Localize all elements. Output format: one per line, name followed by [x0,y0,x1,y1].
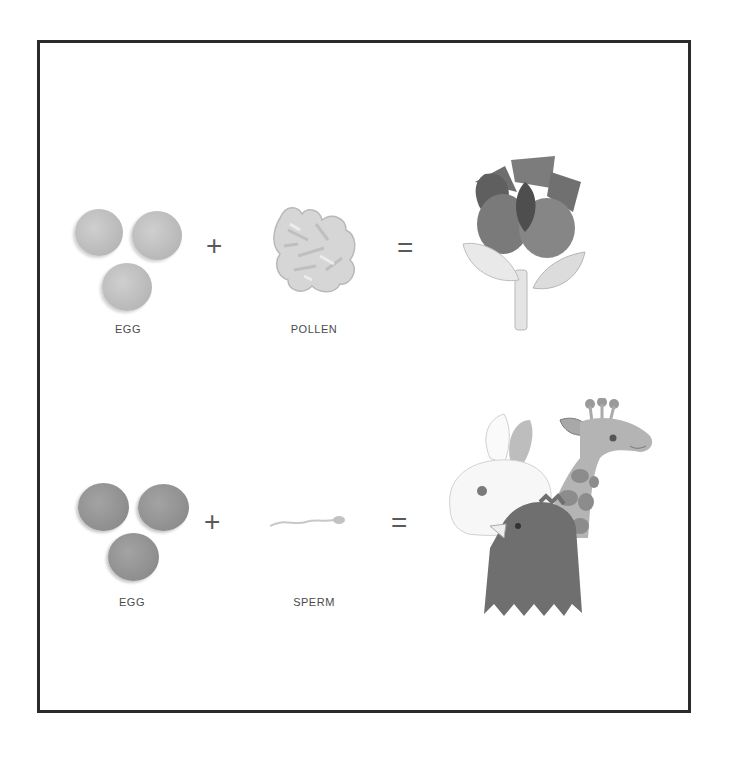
plus-operator: + [206,232,222,260]
egg-cell [75,209,123,256]
egg-cell [132,211,182,260]
equals-operator: = [391,509,407,537]
egg-cell [102,263,152,311]
equals-operator: = [397,234,413,262]
egg-label: EGG [78,323,178,335]
egg-cell [78,483,129,531]
egg-cell [108,533,159,581]
egg-cell [138,484,189,531]
egg-label: EGG [82,596,182,608]
plus-operator: + [204,508,220,536]
sperm-label: SPERM [264,596,364,608]
pollen-label: POLLEN [264,323,364,335]
sperm-icon [268,510,348,534]
pollen-icon [268,200,364,304]
animals-icon [440,398,670,623]
flower-icon [455,152,595,337]
